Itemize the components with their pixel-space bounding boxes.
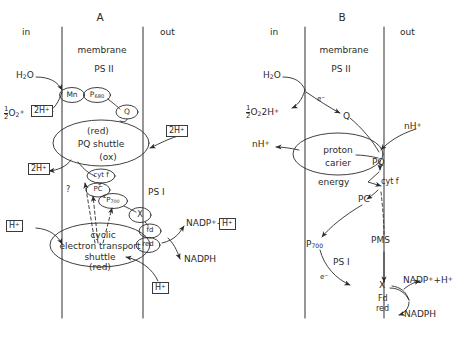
panel-a-question-label: ?	[66, 186, 70, 194]
panel-a-water-label: H2O	[16, 71, 34, 80]
cyclic-shuttle-line2: electron transport	[59, 242, 140, 251]
pq-shuttle-ox-label: (ox)	[99, 153, 117, 162]
panel-b-nadph-label: NADPH	[404, 310, 436, 319]
node-q-label: Q	[124, 108, 130, 116]
panel-b-psii-label: PS II	[331, 65, 350, 74]
panel-a-proton-box-bottom: H+	[152, 282, 169, 294]
panel-b-node-fd-label: Fd	[378, 295, 388, 303]
panel-a-proton-box-left: H+	[6, 220, 23, 232]
panel-b-electron-label-2: e−	[320, 274, 328, 281]
node-x-label: X	[137, 211, 142, 219]
cyclic-shuttle-line1: cyclic	[90, 231, 115, 240]
node-cytf-label: cyt f	[93, 172, 108, 179]
panel-b-node-pms-label: PMS	[371, 236, 390, 245]
panel-b-in-label: in	[270, 28, 278, 37]
panel-b-node-x-label: X	[379, 281, 385, 290]
panel-a-proton-box-in-right: 2H+	[166, 125, 188, 137]
panel-a-in-label: in	[22, 28, 30, 37]
panel-b-out-label: out	[400, 28, 415, 37]
panel-a-oxygen-label: 12O2+	[4, 106, 25, 121]
node-p680-label: P680	[90, 91, 104, 99]
panel-b-node-cytf-label: cyt f	[381, 178, 399, 186]
proton-carrier-line2: carier	[325, 159, 351, 168]
node-mn-label: Mn	[66, 91, 77, 99]
panel-a-proton-box-nadp: H+	[219, 218, 236, 230]
node-fd-red-label: red	[142, 241, 153, 248]
panel-a-title: A	[96, 12, 103, 23]
panel-a-psi-label: PS I	[148, 188, 165, 197]
panel-b-node-pc-label: PC	[358, 195, 370, 204]
panel-a-nadph-label: NADPH	[184, 255, 216, 264]
panel-b-electron-label-1: e−	[317, 96, 325, 103]
panel-b-oxygen-label: 12O22H+	[246, 105, 279, 120]
panel-b-energy-label: energy	[318, 178, 349, 187]
figure-canvas: A in membrane out PS II H2O 12O2+ 2H+ Mn…	[0, 0, 454, 341]
node-pc-label: PC	[93, 186, 102, 193]
panel-b-water-label: H2O	[263, 71, 281, 80]
panel-a-proton-box-out-left: 2H+	[31, 105, 53, 117]
panel-b-nh-in-label: nH+	[252, 140, 270, 149]
panel-b-node-fd-red-label: red	[376, 305, 389, 313]
panel-b-node-p700-label: P700	[306, 240, 323, 249]
pq-shuttle-name-label: PQ shuttle	[78, 140, 125, 149]
node-fd-label: fd	[147, 227, 154, 234]
diagram-vector-layer	[0, 0, 454, 341]
proton-carrier-line1: proton	[323, 146, 352, 155]
pq-shuttle-red-label: (red)	[87, 127, 109, 136]
cyclic-shuttle-line4: (red)	[89, 263, 111, 272]
panel-b-title: B	[338, 12, 345, 23]
panel-a-proton-box-out-lower: 2H+	[28, 163, 50, 175]
cyclic-shuttle-line3: shuttle	[84, 253, 115, 262]
panel-b-node-q-label: Q	[343, 112, 350, 121]
panel-b-node-pq-label: PQ	[372, 158, 385, 167]
panel-a-psii-label: PS II	[94, 65, 113, 74]
node-p700-label: P700	[106, 197, 119, 205]
panel-b-psi-label: PS I	[333, 258, 350, 267]
panel-a-out-label: out	[160, 28, 175, 37]
panel-b-nh-out-label: nH+	[404, 122, 422, 131]
panel-b-nadp-label: NADP++H+	[403, 276, 453, 285]
panel-b-membrane-label: membrane	[319, 46, 368, 55]
panel-a-membrane-label: membrane	[77, 46, 126, 55]
